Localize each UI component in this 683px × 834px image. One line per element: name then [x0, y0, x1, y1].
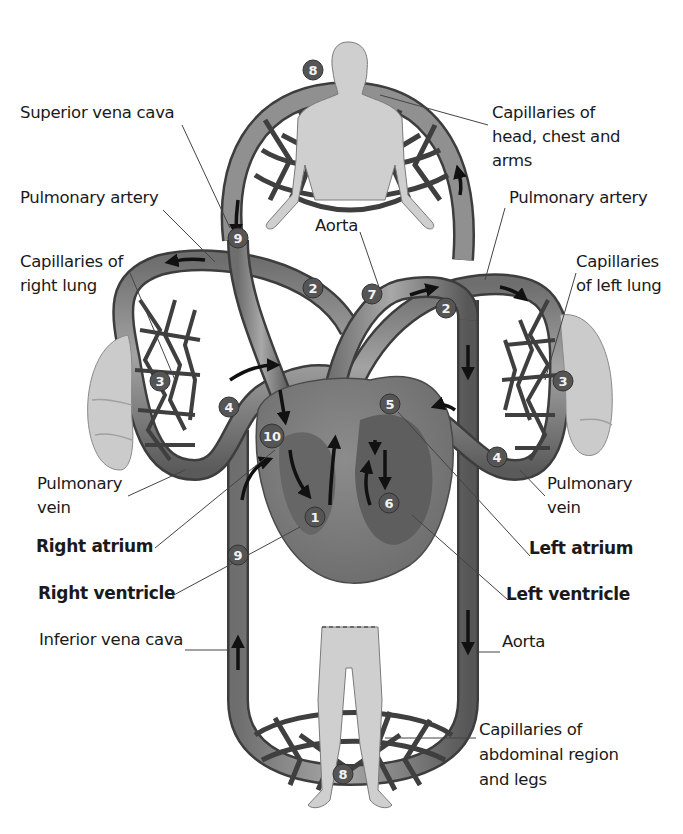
- step-badge-1: 1: [305, 507, 325, 527]
- label-capillaries-head-1: Capillaries of: [492, 101, 595, 125]
- right-lung-icon: [88, 335, 133, 470]
- step-badge-3: 3: [553, 371, 573, 391]
- svg-text:10: 10: [263, 429, 281, 444]
- svg-text:7: 7: [367, 287, 376, 302]
- step-badge-2: 2: [436, 298, 456, 318]
- svg-text:8: 8: [338, 767, 347, 782]
- step-badge-3: 3: [150, 371, 170, 391]
- label-left-ventricle: Left ventricle: [506, 582, 630, 606]
- svg-text:9: 9: [233, 231, 242, 246]
- svg-text:5: 5: [385, 397, 394, 412]
- step-badge-6: 6: [379, 493, 399, 513]
- step-badge-8: 8: [303, 60, 323, 80]
- svg-text:2: 2: [441, 301, 450, 316]
- label-pulmonary-artery-left-label: Pulmonary artery: [20, 186, 159, 210]
- svg-text:3: 3: [558, 374, 567, 389]
- step-badge-7: 7: [362, 284, 382, 304]
- step-badge-8: 8: [333, 764, 353, 784]
- label-capillaries-abdomen-2: abdominal region: [479, 743, 619, 767]
- label-left-atrium: Left atrium: [529, 536, 633, 560]
- label-pulmonary-artery-right-label: Pulmonary artery: [509, 186, 648, 210]
- step-badge-9: 9: [228, 228, 248, 248]
- label-capillaries-head-2: head, chest and: [492, 125, 620, 149]
- label-capillaries-abdomen-3: and legs: [479, 768, 547, 792]
- step-badge-9: 9: [228, 545, 248, 565]
- svg-text:2: 2: [308, 281, 317, 296]
- label-aorta-top: Aorta: [315, 214, 358, 238]
- svg-text:9: 9: [233, 548, 242, 563]
- label-capillaries-head-3: arms: [492, 149, 532, 173]
- step-badge-4: 4: [219, 397, 239, 417]
- label-pulmonary-vein-left-1: Pulmonary: [37, 472, 122, 496]
- label-pulmonary-vein-left-2: vein: [37, 496, 71, 520]
- label-capillaries-left-lung-2: of left lung: [576, 274, 662, 298]
- svg-text:6: 6: [384, 496, 393, 511]
- svg-text:1: 1: [310, 510, 319, 525]
- step-badge-4: 4: [487, 447, 507, 467]
- label-pulmonary-vein-right-1: Pulmonary: [547, 472, 632, 496]
- heart-icon: [256, 376, 453, 583]
- svg-text:8: 8: [308, 63, 317, 78]
- svg-text:3: 3: [155, 374, 164, 389]
- step-badge-2: 2: [303, 278, 323, 298]
- label-capillaries-right-lung-2: right lung: [20, 274, 97, 298]
- step-badge-5: 5: [380, 394, 400, 414]
- label-capillaries-left-lung-1: Capillaries: [576, 250, 659, 274]
- label-aorta-bottom: Aorta: [502, 630, 545, 654]
- label-pulmonary-vein-right-2: vein: [547, 496, 581, 520]
- step-badge-10: 10: [260, 424, 284, 448]
- svg-text:4: 4: [492, 450, 501, 465]
- label-inferior-vena-cava: Inferior vena cava: [39, 628, 183, 652]
- label-right-ventricle: Right ventricle: [38, 581, 175, 605]
- upper-body-silhouette-icon: [266, 42, 433, 229]
- label-capillaries-abdomen-1: Capillaries of: [479, 718, 582, 742]
- label-superior-vena-cava: Superior vena cava: [20, 101, 174, 125]
- svg-text:4: 4: [224, 400, 233, 415]
- label-right-atrium: Right atrium: [36, 534, 153, 558]
- label-capillaries-right-lung-1: Capillaries of: [20, 250, 123, 274]
